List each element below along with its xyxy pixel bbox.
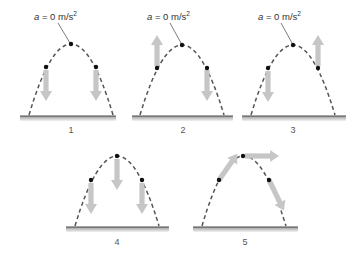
- velocity-arrow-right-icon: [245, 150, 279, 162]
- leader-line: [170, 23, 181, 43]
- ground: [20, 116, 116, 121]
- velocity-arrow-down-right-icon: [264, 177, 290, 213]
- panel-3: a = 0 m/s2 3: [242, 10, 346, 135]
- leader-line: [281, 23, 292, 43]
- projectile-diagram: a = 0 m/s2 1 a = 0 m/s2 2 a = 0 m/s2: [0, 0, 355, 257]
- apex-point: [115, 154, 119, 158]
- position-point: [205, 66, 209, 70]
- ground: [66, 227, 169, 232]
- trajectory-path: [29, 44, 113, 115]
- position-point: [89, 178, 93, 182]
- position-point: [94, 65, 98, 69]
- apex-point: [291, 43, 295, 47]
- position-point: [316, 66, 320, 70]
- acceleration-annotation: a = 0 m/s2: [147, 10, 190, 22]
- acceleration-arrow-down-icon: [85, 183, 97, 214]
- panel-5: 5: [193, 150, 298, 247]
- panel-label: 4: [114, 237, 119, 247]
- apex-point: [69, 42, 73, 46]
- ground: [132, 116, 233, 121]
- position-point: [267, 178, 271, 182]
- position-point: [217, 178, 221, 182]
- trajectory-path: [140, 45, 224, 115]
- panel-2: a = 0 m/s2 2: [132, 10, 233, 135]
- position-point: [44, 65, 48, 69]
- panel-label: 1: [68, 125, 73, 135]
- panel-label: 5: [242, 237, 247, 247]
- apex-point: [180, 43, 184, 47]
- acceleration-arrow-down-icon: [262, 71, 274, 102]
- position-point: [140, 178, 144, 182]
- acceleration-arrow-down-icon: [136, 183, 148, 214]
- acceleration-annotation: a = 0 m/s2: [34, 10, 77, 22]
- panel-label: 3: [290, 125, 295, 135]
- panel-1: a = 0 m/s2 1: [20, 10, 116, 135]
- position-point: [155, 66, 159, 70]
- panel-4: 4: [66, 154, 169, 247]
- acceleration-arrow-down-icon: [201, 70, 213, 101]
- leader-line: [58, 23, 70, 43]
- acceleration-arrow-down-icon: [40, 70, 52, 101]
- trajectory-path: [251, 45, 335, 115]
- apex-point: [241, 154, 245, 158]
- panel-label: 2: [180, 125, 185, 135]
- position-point: [266, 66, 270, 70]
- acceleration-arrow-down-icon: [111, 159, 123, 190]
- acceleration-annotation: a = 0 m/s2: [258, 10, 301, 22]
- acceleration-arrow-down-icon: [90, 70, 102, 101]
- ground: [193, 227, 298, 232]
- ground: [242, 116, 346, 121]
